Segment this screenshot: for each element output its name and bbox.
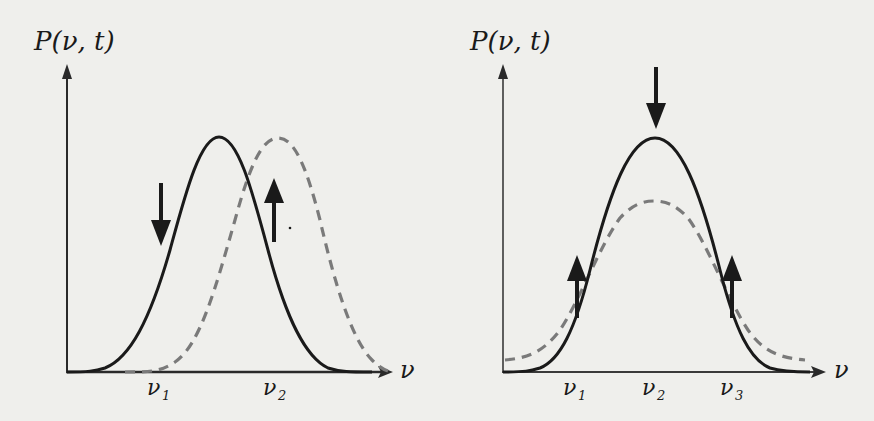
right-tick-nu2: ν 2 [642,375,665,403]
right-tick-nu3: ν 3 [720,375,743,403]
svg-text:ν: ν [147,375,160,400]
figure: P(ν, t) ν ν 1 ν 2 [0,0,874,421]
svg-text:ν: ν [720,375,733,400]
right-down-arrow-icon [646,67,666,129]
left-speck [289,227,292,230]
right-solid-curve [503,138,810,372]
left-tick-nu2: ν 2 [263,375,286,403]
right-panel: P(ν, t) ν ν 1 ν 2 ν 3 [469,26,849,403]
svg-text:ν: ν [563,375,576,400]
left-dashed-curve [125,138,388,372]
svg-text:2: 2 [656,388,665,403]
right-dashed-curve [505,201,805,360]
svg-text:2: 2 [277,388,286,403]
right-up-arrow-nu1-icon [567,255,587,318]
left-solid-curve [67,137,372,372]
left-tick-nu1: ν 1 [147,375,170,403]
left-panel: P(ν, t) ν ν 1 ν 2 [33,26,415,403]
right-y-axis-arrowhead-icon [498,64,508,79]
left-y-axis-arrowhead-icon [62,64,72,79]
svg-text:ν: ν [642,375,655,400]
left-x-label: ν [400,356,415,384]
svg-text:1: 1 [578,388,586,403]
svg-text:3: 3 [735,388,743,403]
svg-text:1: 1 [162,388,170,403]
figure-svg: P(ν, t) ν ν 1 ν 2 [0,0,874,421]
svg-text:ν: ν [263,375,276,400]
right-y-label: P(ν, t) [469,26,551,56]
right-x-label: ν [834,356,849,384]
right-tick-nu1: ν 1 [563,375,586,403]
left-up-arrow-icon [264,178,284,242]
left-y-label: P(ν, t) [33,26,115,56]
left-down-arrow-icon [151,183,171,246]
